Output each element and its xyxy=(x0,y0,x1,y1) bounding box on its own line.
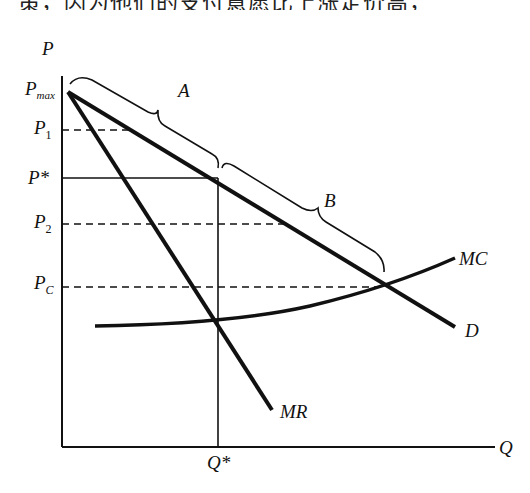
mr-label: MR xyxy=(279,401,308,422)
pmax-label: Pmax xyxy=(24,78,55,101)
brace-a xyxy=(70,78,218,168)
pstar-label: P* xyxy=(27,167,50,188)
demand-line xyxy=(68,92,455,327)
mr-line xyxy=(68,92,272,410)
x-axis-label: Q xyxy=(499,437,513,458)
y-axis-label: P xyxy=(41,38,54,59)
bracket-a-label: A xyxy=(176,80,190,101)
monopoly-price-diagram: P Q Pmax P1 P* P2 PC Q* D MR MC A B xyxy=(0,0,530,493)
pc-label: PC xyxy=(33,272,55,297)
mc-label: MC xyxy=(458,248,488,269)
bracket-b-label: B xyxy=(324,190,336,211)
demand-label: D xyxy=(464,320,479,341)
p1-label: P1 xyxy=(33,117,52,142)
brace-b xyxy=(222,163,384,272)
p2-label: P2 xyxy=(33,211,52,236)
qstar-label: Q* xyxy=(207,452,231,473)
